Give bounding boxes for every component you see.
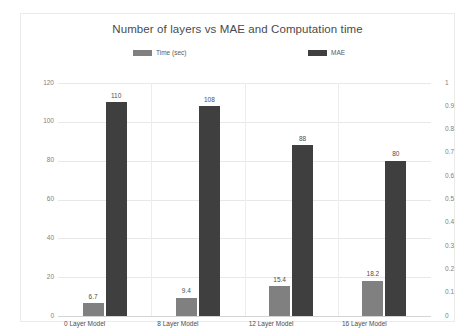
y-axis-right-tick-label: 0.8 (445, 126, 454, 133)
plot-area: 6.71109.410815.48818.280 (58, 83, 431, 316)
y-axis-left-tick-label: 60 (47, 196, 54, 203)
y-axis-right-tick-label: 0.5 (445, 196, 454, 203)
bar-time[interactable] (176, 298, 197, 316)
y-axis-left-tick-label: 20 (47, 274, 54, 281)
y-axis-right: 00.10.20.30.40.50.60.70.80.91 (435, 83, 472, 316)
y-axis-right-tick-label: 0.1 (445, 289, 454, 296)
legend-item-time[interactable]: Time (sec) (133, 49, 186, 56)
y-axis-left-tick-label: 80 (47, 157, 54, 164)
y-axis-right-tick-label: 0.7 (445, 149, 454, 156)
x-axis-category-label: 8 Layer Model (131, 321, 224, 328)
y-axis-right-tick-label: 0.4 (445, 219, 454, 226)
bar-group: 18.280 (338, 83, 431, 316)
y-axis-right-tick-label: 0.9 (445, 103, 454, 110)
bar-mae[interactable] (199, 106, 220, 316)
bar-group: 9.4108 (151, 83, 244, 316)
x-axis-category-label: 16 Layer Model (318, 321, 411, 328)
y-axis-left-tick-label: 120 (43, 80, 54, 87)
y-axis-right-tick-label: 1 (445, 80, 449, 87)
legend-label-time: Time (sec) (156, 49, 186, 56)
bar-group: 15.488 (245, 83, 338, 316)
legend-swatch-mae-icon (308, 50, 327, 56)
chart-container: Number of layers vs MAE and Computation … (20, 13, 455, 322)
bar-time[interactable] (83, 303, 104, 316)
y-axis-right-tick-label: 0.2 (445, 266, 454, 273)
bar-value-label-time: 9.4 (176, 288, 197, 295)
y-axis-right-tick-label: 0 (445, 313, 449, 320)
chart-legend: Time (sec) MAE (21, 49, 454, 63)
legend-item-mae[interactable]: MAE (308, 49, 345, 56)
chart-title: Number of layers vs MAE and Computation … (21, 23, 454, 35)
x-axis-category-label: 0 Layer Model (38, 321, 131, 328)
legend-swatch-time-icon (133, 50, 152, 56)
bar-mae[interactable] (385, 161, 406, 316)
y-axis-right-tick-label: 0.6 (445, 173, 454, 180)
bar-time[interactable] (269, 286, 290, 316)
bar-group: 6.7110 (58, 83, 151, 316)
y-axis-left-tick-label: 0 (50, 313, 54, 320)
x-axis-category-label: 12 Layer Model (225, 321, 318, 328)
bar-value-label-mae: 110 (106, 93, 127, 100)
gridline (58, 316, 431, 317)
y-axis-left-tick-label: 100 (43, 118, 54, 125)
bar-value-label-mae: 88 (292, 136, 313, 143)
y-axis-left: 020406080100120 (21, 83, 54, 316)
bar-mae[interactable] (292, 145, 313, 316)
bar-value-label-time: 18.2 (362, 271, 383, 278)
bar-value-label-time: 15.4 (269, 277, 290, 284)
bar-mae[interactable] (106, 102, 127, 316)
legend-label-mae: MAE (331, 49, 345, 56)
bar-value-label-time: 6.7 (83, 294, 104, 301)
bar-value-label-mae: 108 (199, 97, 220, 104)
y-axis-right-tick-label: 0.3 (445, 243, 454, 250)
y-axis-left-tick-label: 40 (47, 235, 54, 242)
bar-value-label-mae: 80 (385, 151, 406, 158)
bar-time[interactable] (362, 281, 383, 316)
